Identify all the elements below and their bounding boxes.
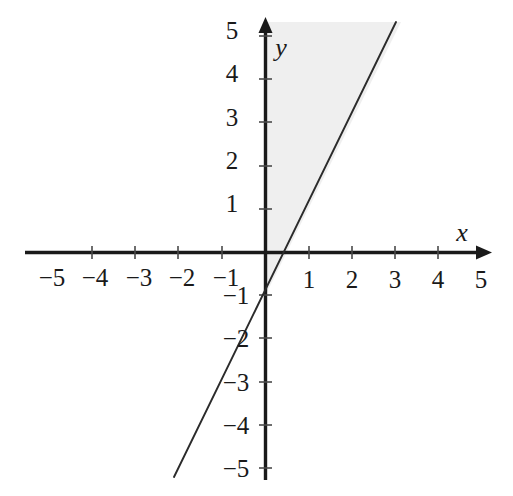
x-tick-label-4: 4 — [432, 267, 445, 292]
y-tick-label-1: 1 — [226, 191, 239, 216]
x-axis-arrowhead — [476, 246, 492, 260]
y-tick-label-2: 2 — [226, 148, 239, 173]
y-axis-label: y — [275, 35, 287, 61]
coordinate-plane-figure: 5 4 3 2 1 −1 −2 −3 −4 −5 −5 −4 −3 −2 −1 … — [0, 0, 513, 496]
x-tick-label-1: 1 — [303, 267, 316, 292]
graph-canvas — [0, 0, 513, 496]
y-tick-label-neg3: −3 — [223, 370, 250, 395]
x-tick-label-3: 3 — [389, 267, 402, 292]
x-tick-label-neg2: −2 — [169, 265, 196, 290]
y-tick-label-neg5: −5 — [223, 456, 250, 481]
y-tick-label-3: 3 — [226, 105, 239, 130]
x-tick-label-5: 5 — [475, 267, 488, 292]
y-tick-label-5: 5 — [226, 18, 239, 43]
x-tick-label-neg1: −1 — [213, 265, 240, 290]
x-tick-label-2: 2 — [346, 267, 359, 292]
y-tick-label-neg2: −2 — [223, 326, 250, 351]
x-axis — [25, 246, 492, 260]
y-tick-label-neg4: −4 — [223, 413, 250, 438]
x-tick-label-neg4: −4 — [82, 265, 109, 290]
y-tick-label-4: 4 — [226, 61, 239, 86]
x-tick-label-neg5: −5 — [39, 265, 66, 290]
x-axis-label: x — [456, 220, 468, 246]
x-tick-label-neg3: −3 — [126, 265, 153, 290]
